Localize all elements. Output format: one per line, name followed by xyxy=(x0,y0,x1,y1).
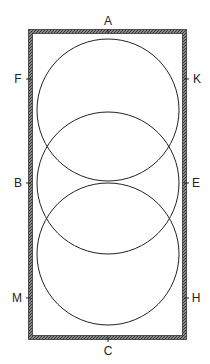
label-e: E xyxy=(192,176,200,190)
circle-top xyxy=(37,39,179,181)
label-h: H xyxy=(192,291,201,305)
label-c: C xyxy=(104,344,113,358)
diagram-canvas: A C F B M K E H xyxy=(0,0,210,364)
label-b: B xyxy=(14,176,22,190)
label-k: K xyxy=(193,72,201,86)
label-a: A xyxy=(104,14,112,28)
label-m: M xyxy=(12,291,22,305)
label-f: F xyxy=(14,72,21,86)
rectangle-frame xyxy=(29,30,187,340)
